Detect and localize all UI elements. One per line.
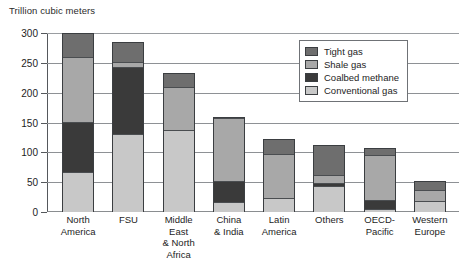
y-axis-tick-label: 200	[21, 87, 38, 98]
bar-segment-conventional-gas[interactable]	[365, 210, 395, 212]
bar-segment-coalbed-methane[interactable]	[214, 182, 244, 203]
legend-item[interactable]: Tight gas	[305, 45, 399, 58]
x-axis-tick-label: NorthAmerica	[56, 214, 100, 260]
stacked-bar[interactable]	[313, 145, 345, 212]
chart-legend: Tight gasShale gasCoalbed methaneConvent…	[299, 40, 408, 102]
x-axis-tick-label: Middle East& NorthAfrica	[157, 214, 201, 260]
chart-root: Trillion cubic meters 050100150200250300…	[0, 0, 471, 269]
bar-segment-conventional-gas[interactable]	[164, 131, 194, 212]
y-axis-tick-label: 150	[21, 117, 38, 128]
bar-segment-shale-gas[interactable]	[214, 119, 244, 182]
y-axis-tick-label: 300	[21, 28, 38, 39]
bar-segment-shale-gas[interactable]	[264, 155, 294, 199]
legend-label: Conventional gas	[324, 85, 397, 96]
bar-segment-shale-gas[interactable]	[164, 88, 194, 131]
bar-column	[163, 33, 195, 212]
legend-label: Shale gas	[324, 59, 366, 70]
bar-segment-shale-gas[interactable]	[415, 191, 445, 203]
x-axis-tick-label: FSU	[106, 214, 150, 260]
bar-segment-conventional-gas[interactable]	[264, 199, 294, 212]
y-axis-tick	[41, 212, 47, 213]
legend-label: Tight gas	[324, 46, 363, 57]
x-axis-labels: NorthAmericaFSUMiddle East& NorthAfricaC…	[47, 214, 459, 260]
legend-item[interactable]: Coalbed methane	[305, 71, 399, 84]
bar-segment-coalbed-methane[interactable]	[365, 201, 395, 210]
legend-swatch-icon	[305, 73, 318, 82]
stacked-bar[interactable]	[263, 139, 295, 212]
x-axis-tick-label: OECD-Pacific	[358, 214, 402, 260]
bar-segment-shale-gas[interactable]	[314, 176, 344, 184]
bar-segment-tight-gas[interactable]	[314, 146, 344, 175]
bar-column	[62, 33, 94, 212]
stacked-bar[interactable]	[213, 117, 245, 212]
legend-swatch-icon	[305, 47, 318, 56]
legend-item[interactable]: Shale gas	[305, 58, 399, 71]
legend-swatch-icon	[305, 60, 318, 69]
y-axis-tick-label: 250	[21, 57, 38, 68]
bar-segment-conventional-gas[interactable]	[63, 173, 93, 212]
bar-segment-coalbed-methane[interactable]	[113, 68, 143, 135]
bar-segment-conventional-gas[interactable]	[113, 135, 143, 212]
bar-column	[263, 33, 295, 212]
bar-column	[112, 33, 144, 212]
bar-segment-tight-gas[interactable]	[365, 149, 395, 156]
x-axis-tick-label: LatinAmerica	[257, 214, 301, 260]
stacked-bar[interactable]	[62, 33, 94, 212]
bar-segment-conventional-gas[interactable]	[214, 203, 244, 212]
bar-segment-conventional-gas[interactable]	[415, 202, 445, 212]
y-axis-title: Trillion cubic meters	[9, 5, 95, 16]
stacked-bar[interactable]	[163, 73, 195, 212]
bar-column	[213, 33, 245, 212]
bar-segment-shale-gas[interactable]	[365, 156, 395, 201]
stacked-bar[interactable]	[414, 181, 446, 212]
y-axis-tick-label: 0	[32, 207, 38, 218]
x-axis-tick-label: Others	[307, 214, 351, 260]
bar-segment-tight-gas[interactable]	[415, 182, 445, 191]
stacked-bar[interactable]	[112, 42, 144, 212]
bar-segment-tight-gas[interactable]	[113, 43, 143, 63]
bar-segment-shale-gas[interactable]	[63, 58, 93, 123]
legend-swatch-icon	[305, 86, 318, 95]
y-axis-tick-label: 100	[21, 147, 38, 158]
bar-segment-tight-gas[interactable]	[264, 140, 294, 155]
bar-segment-coalbed-methane[interactable]	[63, 123, 93, 173]
bar-column	[414, 33, 446, 212]
bar-segment-tight-gas[interactable]	[63, 34, 93, 58]
legend-label: Coalbed methane	[324, 72, 399, 83]
legend-item[interactable]: Conventional gas	[305, 84, 399, 97]
x-axis-tick-label: WesternEurope	[408, 214, 452, 260]
stacked-bar[interactable]	[364, 148, 396, 212]
bar-segment-tight-gas[interactable]	[164, 74, 194, 88]
x-axis-tick-label: China& India	[207, 214, 251, 260]
bar-segment-conventional-gas[interactable]	[314, 187, 344, 212]
y-axis-tick-label: 50	[27, 177, 38, 188]
